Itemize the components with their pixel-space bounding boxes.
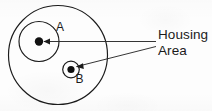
- callout-housing-label: Housing: [158, 27, 208, 42]
- callout-area-label: Area: [158, 43, 187, 58]
- housing-area-diagram: A B Housing Area: [0, 0, 212, 111]
- leader-arrowhead-housing: [44, 39, 51, 45]
- diagram-canvas: A B Housing Area: [0, 0, 212, 111]
- circle-b-label: B: [76, 72, 84, 86]
- circle-a-label: A: [56, 20, 64, 34]
- circle-b-center-dot: [67, 66, 74, 73]
- leader-line-area: [77, 47, 157, 67]
- circle-a-center-dot: [35, 37, 43, 45]
